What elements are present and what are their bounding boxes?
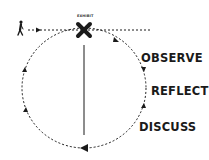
cycle-diagram <box>0 0 209 160</box>
arrow-icon-top-right <box>113 37 119 42</box>
marker-label: EXHIBIT <box>77 14 93 18</box>
walking-person-icon <box>18 20 23 35</box>
arrow-icon-bottom <box>80 144 88 152</box>
stage-label-observe: OBSERVE <box>141 51 203 65</box>
stage-label-discuss: DISCUSS <box>139 120 196 134</box>
arrow-icon-left <box>22 67 27 72</box>
arrow-icon-lower-left <box>23 107 28 112</box>
entry-arrow-icon <box>36 28 41 33</box>
stage-label-reflect: REFLECT <box>151 84 208 98</box>
